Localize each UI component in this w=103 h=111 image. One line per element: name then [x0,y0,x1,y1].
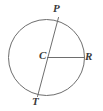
point-label-c: C [39,50,46,61]
geometry-figure: P C R T [0,0,103,111]
point-label-r: R [85,51,92,62]
point-label-t: T [32,96,39,107]
point-label-p: P [53,3,60,14]
